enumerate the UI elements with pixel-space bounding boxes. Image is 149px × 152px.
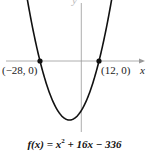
x-axis-label: x [140, 64, 145, 76]
caption-prefix: f(x) = x [27, 138, 61, 150]
right-intercept-label: (12, 0) [101, 64, 130, 76]
parabola-plot [0, 0, 149, 152]
y-axis-label: y [72, 0, 77, 6]
function-caption: f(x) = x2 + 16x − 336 [0, 137, 149, 150]
left-intercept-point [37, 58, 42, 63]
left-intercept-label: (−28, 0) [2, 64, 38, 76]
x-axis-arrow-icon [139, 59, 145, 64]
caption-suffix: + 16x − 336 [65, 138, 122, 150]
right-intercept-point [96, 58, 101, 63]
